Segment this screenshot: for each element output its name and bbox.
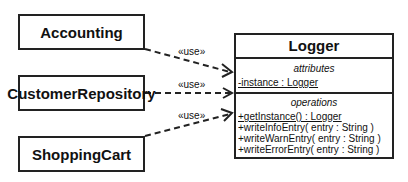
logger-title: Logger <box>236 35 392 59</box>
class-accounting[interactable]: Accounting <box>18 14 145 50</box>
attributes-section: attributes -instance : Logger <box>236 59 392 94</box>
attributes-label: attributes <box>236 59 392 75</box>
operation-write-warn: +writeWarnEntry( entry : String ) <box>236 133 392 144</box>
class-name: CustomerRepository <box>7 85 155 102</box>
class-name: Accounting <box>40 24 123 41</box>
use-label-customer-repository: «use» <box>178 79 205 90</box>
class-logger[interactable]: Logger attributes -instance : Logger ope… <box>234 33 394 159</box>
attribute-instance: -instance : Logger <box>236 77 392 88</box>
class-shopping-cart[interactable]: ShoppingCart <box>18 136 145 172</box>
operations-section: operations +getInstance() : Logger +writ… <box>236 94 392 155</box>
operation-write-error: +writeErrorEntry( entry : String ) <box>236 144 392 155</box>
use-label-accounting: «use» <box>178 46 205 57</box>
operation-write-info: +writeInfoEntry( entry : String ) <box>236 122 392 133</box>
use-label-shopping-cart: «use» <box>178 110 205 121</box>
class-name: ShoppingCart <box>32 146 131 163</box>
operations-label: operations <box>236 94 392 109</box>
operation-get-instance: +getInstance() : Logger <box>236 111 392 122</box>
class-customer-repository[interactable]: CustomerRepository <box>18 75 145 111</box>
